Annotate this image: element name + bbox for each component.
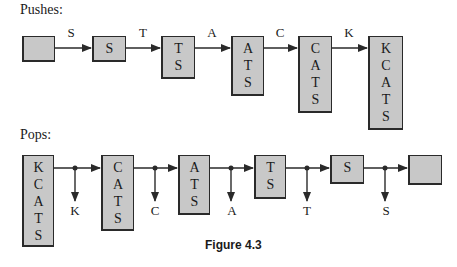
stack-cell: T	[34, 210, 43, 227]
push-edge-label: A	[207, 25, 216, 41]
push-edge-label: C	[276, 25, 285, 41]
stack-cell: T	[266, 159, 275, 176]
push-edge-label: T	[139, 25, 147, 41]
stack-cell: S	[191, 193, 199, 210]
stack-cell: C	[113, 159, 122, 176]
stack-cell: S	[106, 40, 114, 57]
stack-cell: A	[189, 159, 199, 176]
pop-stack-2: A T S	[178, 155, 210, 215]
push-stack-5: K C A T S	[368, 36, 403, 130]
pop-stack-0: K C A T S	[22, 155, 54, 247]
stack-cell: T	[244, 57, 253, 74]
stack-cell: T	[382, 91, 391, 108]
stack-cell: S	[267, 176, 275, 193]
stack-cell: A	[381, 74, 391, 91]
pop-stack-1: C A T S	[101, 155, 134, 231]
stack-cell: A	[243, 40, 253, 57]
stack-cell: T	[311, 74, 320, 91]
stack-cell: A	[33, 193, 43, 210]
pop-stack-3: T S	[254, 155, 286, 199]
pop-output-label: T	[303, 203, 311, 219]
pop-output-label: C	[151, 203, 160, 219]
stack-cell: A	[113, 176, 123, 193]
stack-cell: S	[382, 108, 390, 125]
stack-cell: K	[33, 159, 43, 176]
figure-caption: Figure 4.3	[205, 238, 262, 252]
stack-cell: S	[344, 159, 352, 176]
stack-cell: T	[190, 176, 199, 193]
stack-cell: C	[34, 176, 43, 193]
pop-stack-4: S	[330, 155, 364, 184]
stack-cell: T	[114, 193, 123, 210]
stack-cell: C	[311, 40, 320, 57]
push-stack-1: S	[92, 36, 126, 62]
stack-cell: S	[244, 74, 252, 91]
stack-cell: S	[35, 227, 43, 244]
pop-output-label: S	[382, 203, 389, 219]
pop-output-label: K	[70, 203, 79, 219]
push-stack-empty	[22, 36, 55, 62]
stack-cell: S	[175, 57, 183, 74]
stack-cell: A	[310, 57, 320, 74]
push-stack-4: C A T S	[298, 36, 332, 113]
stack-cell: C	[381, 57, 390, 74]
pop-output-label: A	[227, 203, 236, 219]
pop-stack-empty	[408, 155, 442, 185]
push-edge-label: S	[67, 25, 74, 41]
push-stack-3: A T S	[231, 36, 264, 96]
stack-cell: T	[174, 40, 183, 57]
stack-cell: S	[114, 210, 122, 227]
push-edge-label: K	[344, 25, 353, 41]
stack-cell: S	[312, 91, 320, 108]
push-stack-2: T S	[161, 36, 195, 79]
stack-cell: K	[381, 40, 391, 57]
